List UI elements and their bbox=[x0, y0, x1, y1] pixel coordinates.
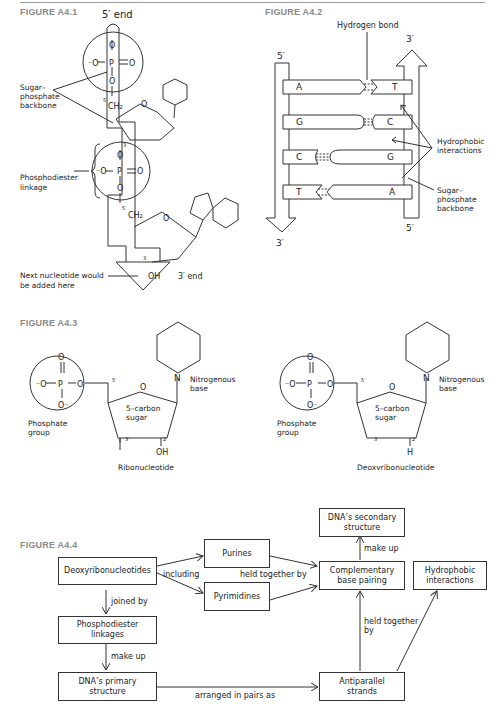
edge-including: including bbox=[163, 570, 199, 579]
node-phosphodiester-linkages: Phosphodiester linkages bbox=[58, 616, 157, 644]
edge-joined-by: joined by bbox=[111, 597, 148, 606]
node-primary-structure: DNA’s primary structure bbox=[58, 672, 157, 701]
edge-held-together-by: held together by bbox=[240, 570, 307, 579]
node-secondary-structure: DNA’s secondary structure bbox=[319, 508, 405, 537]
node-purines: Purines bbox=[204, 539, 270, 568]
node-pyrimidines: Pyrimidines bbox=[204, 582, 270, 611]
edge-make-up-secondary: make up bbox=[364, 544, 399, 553]
node-complementary-base-pairing: Complementary base pairing bbox=[319, 561, 405, 590]
edge-make-up-primary: make up bbox=[111, 652, 146, 661]
edge-arranged-in-pairs: arranged in pairs as bbox=[195, 691, 275, 700]
edge-held-together-by-antiparallel: held together by bbox=[364, 617, 420, 635]
node-hydrophobic-interactions: Hydrophobic interactions bbox=[413, 561, 487, 590]
node-antiparallel-strands: Antiparallel strands bbox=[319, 672, 405, 701]
node-deoxyribonucleotides: Deoxyribonucleotides bbox=[58, 557, 157, 585]
